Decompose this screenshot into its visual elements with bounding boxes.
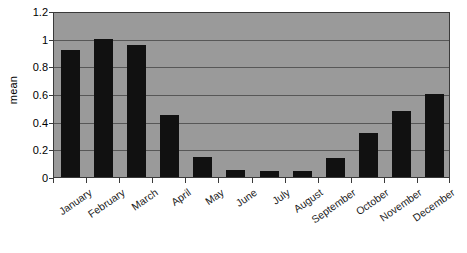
y-axis-tick-label: 1.2	[20, 6, 48, 18]
x-axis-tick-mark	[53, 178, 54, 183]
bar-chart: mean 00.20.40.60.811.2 JanuaryFebruaryMa…	[0, 0, 467, 253]
y-axis-tick-label: 0.4	[20, 117, 48, 129]
x-axis-tick-label: April	[169, 186, 193, 208]
bar	[160, 115, 179, 177]
x-axis-tick-mark	[86, 178, 87, 183]
x-axis-tick-label: March	[129, 186, 160, 213]
x-axis-tick-label: June	[233, 186, 259, 209]
x-axis-ticks	[53, 178, 450, 184]
y-axis-tick-mark	[49, 123, 53, 124]
y-axis-tick-mark	[49, 67, 53, 68]
plot-area	[53, 12, 450, 178]
bar	[359, 133, 378, 177]
x-axis-tick-mark	[318, 178, 319, 183]
x-axis-tick-label: February	[85, 186, 126, 220]
bar	[392, 111, 411, 177]
bars-layer	[54, 13, 449, 177]
y-axis-tick-mark	[49, 12, 53, 13]
x-axis-tick-mark	[252, 178, 253, 183]
bar	[61, 50, 80, 177]
x-axis-tick-mark	[119, 178, 120, 183]
y-axis-title-label: mean	[7, 76, 19, 104]
y-axis-tick-labels: 00.20.40.60.811.2	[20, 0, 48, 190]
bar	[293, 171, 312, 177]
bar	[260, 171, 279, 177]
bar	[226, 170, 245, 177]
x-axis-tick-mark	[185, 178, 186, 183]
bar	[326, 158, 345, 177]
bar	[193, 157, 212, 177]
x-axis-tick-labels: JanuaryFebruaryMarchAprilMayJuneJulyAugu…	[53, 186, 467, 253]
y-axis-tick-mark	[49, 95, 53, 96]
y-axis-tick-mark	[49, 40, 53, 41]
x-axis-tick-mark	[218, 178, 219, 183]
bar	[94, 39, 113, 177]
y-axis-tick-mark	[49, 178, 53, 179]
y-axis-tick-label: 0.8	[20, 61, 48, 73]
x-axis-tick-mark	[417, 178, 418, 183]
x-axis-tick-mark	[449, 178, 450, 183]
y-axis-tick-label: 0.2	[20, 144, 48, 156]
y-axis-tick-label: 0	[20, 172, 48, 184]
bar	[425, 94, 444, 177]
bar	[127, 45, 146, 177]
x-axis-tick-label: July	[270, 186, 292, 207]
x-axis-tick-mark	[384, 178, 385, 183]
y-axis-tick-label: 1	[20, 34, 48, 46]
x-axis-tick-label: May	[203, 186, 226, 207]
y-axis-tick-mark	[49, 150, 53, 151]
x-axis-tick-mark	[351, 178, 352, 183]
x-axis-tick-mark	[152, 178, 153, 183]
x-axis-tick-mark	[285, 178, 286, 183]
y-axis-tick-label: 0.6	[20, 89, 48, 101]
